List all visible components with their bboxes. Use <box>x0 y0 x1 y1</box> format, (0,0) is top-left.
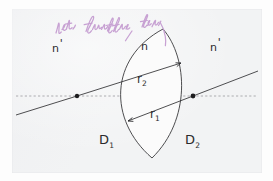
radius-line-r2-extension <box>16 96 77 115</box>
center-of-curvature-left-dot <box>75 94 79 98</box>
figure-scan: n' n n' r2 r1 D1 D2 <box>0 0 273 181</box>
label-d2: D2 <box>185 133 200 149</box>
label-r1: r1 <box>150 109 160 123</box>
label-n-prime-left: n' <box>52 43 63 54</box>
lens-diagram-svg <box>0 0 273 181</box>
label-n-prime-right: n' <box>210 42 221 53</box>
center-of-curvature-right-dot <box>191 94 196 99</box>
lens-body <box>121 29 182 158</box>
label-d1: D1 <box>99 133 114 149</box>
label-n-medium: n <box>141 41 148 52</box>
radius-line-r1-extension <box>193 71 258 96</box>
label-r2: r2 <box>137 74 147 88</box>
